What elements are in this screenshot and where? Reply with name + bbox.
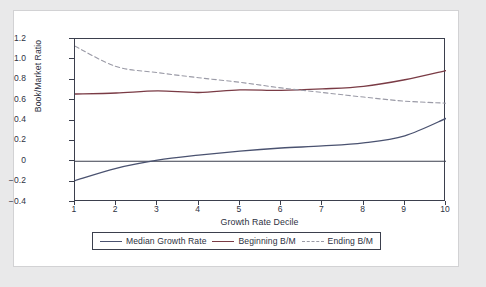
- x-tick-mark: [198, 201, 199, 205]
- x-tick-label: 2: [102, 204, 128, 214]
- x-tick-mark: [115, 201, 116, 205]
- legend-swatch-icon: [100, 238, 122, 245]
- x-tick-mark: [74, 201, 75, 205]
- x-tick-mark: [404, 201, 405, 205]
- legend-entry[interactable]: Ending B/M: [302, 236, 373, 246]
- x-tick-label: 8: [350, 204, 376, 214]
- legend-label: Ending B/M: [328, 236, 373, 246]
- x-tick-label: 10: [432, 204, 458, 214]
- y-tick-label: 1.2: [0, 34, 26, 43]
- series-line: [75, 71, 446, 94]
- y-tick-label: 0.8: [0, 74, 26, 83]
- legend-label: Beginning B/M: [238, 236, 295, 246]
- plot-svg: [75, 39, 446, 202]
- plot-area: [74, 38, 445, 201]
- x-tick-label: 4: [185, 204, 211, 214]
- legend-entry[interactable]: Median Growth Rate: [100, 236, 207, 246]
- legend-swatch-icon: [302, 238, 324, 245]
- y-tick-label: −0.2: [0, 176, 26, 185]
- y-tick-label: 0: [0, 156, 26, 165]
- y-tick-label: 0.2: [0, 135, 26, 144]
- series-layer: [75, 46, 446, 180]
- x-tick-label: 6: [267, 204, 293, 214]
- x-tick-label: 1: [61, 204, 87, 214]
- legend-swatch-icon: [212, 238, 234, 245]
- x-tick-mark: [156, 201, 157, 205]
- y-tick-label: −0.4: [0, 197, 26, 206]
- x-tick-mark: [239, 201, 240, 205]
- x-tick-mark: [445, 201, 446, 205]
- legend-entry[interactable]: Beginning B/M: [212, 236, 295, 246]
- x-tick-label: 9: [391, 204, 417, 214]
- series-line: [75, 118, 446, 180]
- x-tick-mark: [363, 201, 364, 205]
- series-line: [75, 46, 446, 103]
- x-tick-mark: [321, 201, 322, 205]
- x-tick-label: 3: [143, 204, 169, 214]
- y-axis-title: Book/Market Ratio: [33, 16, 43, 136]
- screenshot-page: Book/Market Ratio 1.21.00.80.60.40.20−0.…: [0, 0, 486, 287]
- x-tick-label: 5: [226, 204, 252, 214]
- legend-label: Median Growth Rate: [126, 236, 207, 246]
- y-tick-label: 0.6: [0, 95, 26, 104]
- figure-card: Book/Market Ratio 1.21.00.80.60.40.20−0.…: [13, 10, 459, 267]
- x-tick-label: 7: [308, 204, 334, 214]
- x-tick-mark: [280, 201, 281, 205]
- y-tick-label: 0.4: [0, 115, 26, 124]
- x-axis-title: Growth Rate Decile: [74, 217, 445, 227]
- chart-legend: Median Growth RateBeginning B/MEnding B/…: [92, 232, 381, 250]
- chart-figure: Book/Market Ratio 1.21.00.80.60.40.20−0.…: [14, 11, 460, 268]
- y-tick-label: 1.0: [0, 54, 26, 63]
